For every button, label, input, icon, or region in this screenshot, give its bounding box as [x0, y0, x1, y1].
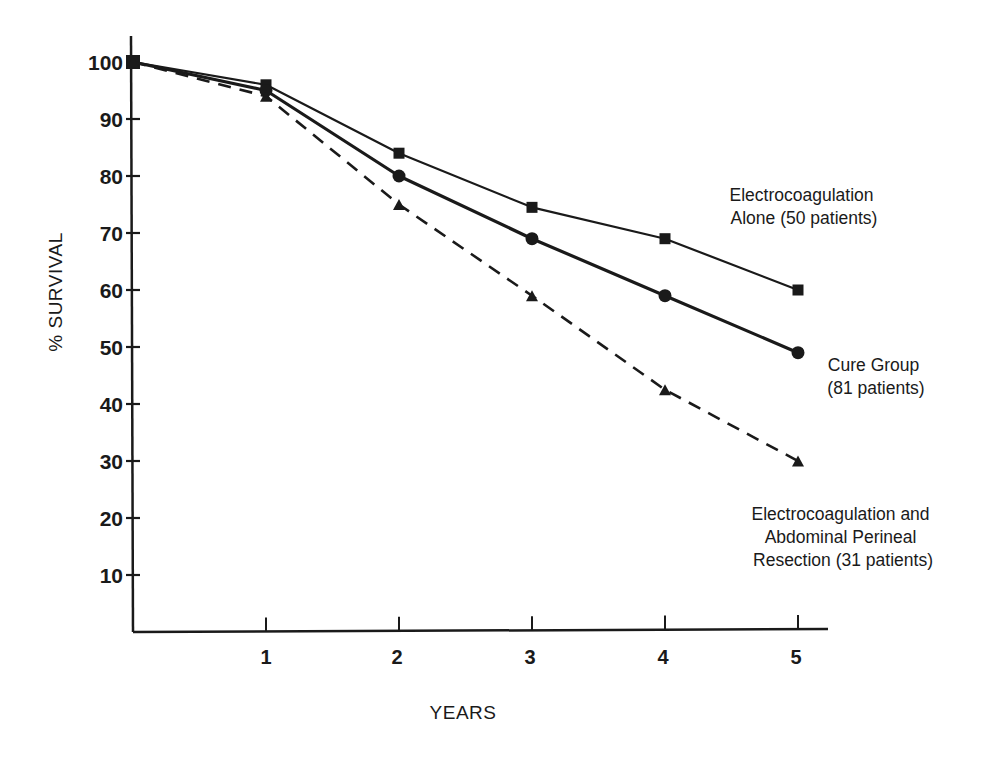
- annotation-electrocoagulation-alone: Electrocoagulation Alone (50 patients): [730, 185, 879, 228]
- x-axis-title: YEARS: [430, 702, 497, 723]
- series-line: [133, 62, 798, 353]
- y-axis-title: % SURVIVAL: [45, 232, 66, 351]
- x-tick-label: 4: [657, 646, 669, 668]
- annotation-cure-group: Cure Group (81 patients): [827, 355, 924, 398]
- square-marker: [793, 285, 804, 296]
- annotation-line: (81 patients): [827, 378, 924, 398]
- series-line: [133, 62, 798, 461]
- series-layer: [126, 55, 805, 467]
- triangle-marker: [792, 456, 804, 467]
- y-tick-label: 50: [100, 336, 123, 359]
- annotation-line: Electrocoagulation and: [752, 504, 930, 524]
- x-axis-ticks: 12345: [260, 615, 801, 668]
- y-tick-label: 60: [100, 279, 123, 302]
- circle-marker: [393, 170, 406, 183]
- y-tick-label: 80: [100, 165, 123, 188]
- square-marker: [660, 233, 671, 244]
- annotation-electrocoagulation-apr: Electrocoagulation and Abdominal Perinea…: [752, 504, 935, 570]
- annotation-line: Cure Group: [828, 355, 919, 375]
- square-marker: [394, 148, 405, 159]
- x-axis-line: [133, 629, 828, 632]
- series-triangle: [127, 57, 804, 467]
- x-tick-label: 1: [260, 646, 271, 668]
- annotation-line: Abdominal Perineal: [765, 527, 917, 547]
- y-tick-label: 40: [100, 393, 123, 416]
- circle-marker: [526, 232, 539, 245]
- square-marker: [527, 202, 538, 213]
- series-circle: [127, 56, 805, 359]
- y-tick-label: 10: [100, 564, 123, 587]
- circle-marker: [792, 346, 805, 359]
- x-tick-label: 3: [524, 646, 535, 668]
- circle-marker: [659, 289, 672, 302]
- annotation-line: Resection (31 patients): [753, 550, 933, 570]
- survival-chart: 102030405060708090100 12345 % SURVIVAL Y…: [0, 0, 992, 758]
- series-square: [126, 55, 804, 296]
- annotation-line: Electrocoagulation: [730, 185, 874, 205]
- x-tick-label: 5: [790, 646, 801, 668]
- annotation-line: Alone (50 patients): [731, 208, 878, 228]
- y-tick-label: 70: [100, 222, 123, 245]
- x-tick-label: 2: [391, 646, 402, 668]
- y-tick-label: 90: [100, 108, 123, 131]
- y-tick-label: 20: [100, 507, 123, 530]
- y-tick-label: 30: [100, 450, 123, 473]
- y-tick-label: 100: [88, 51, 123, 74]
- axes: [131, 36, 828, 632]
- triangle-marker: [393, 199, 405, 210]
- y-axis-line: [131, 36, 133, 632]
- series-line: [133, 62, 798, 290]
